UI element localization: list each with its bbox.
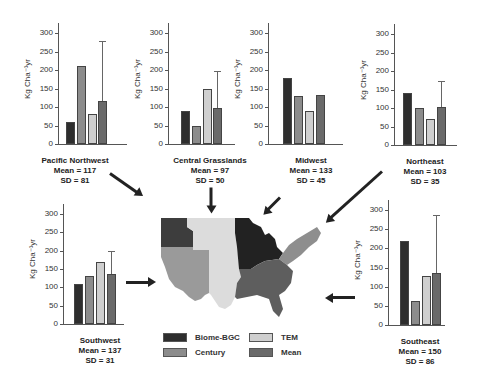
y-tick-mark xyxy=(385,248,388,249)
y-tick-mark xyxy=(60,251,63,252)
bar-biome-bgc xyxy=(403,93,412,145)
y-tick-mark xyxy=(60,287,63,288)
y-axis xyxy=(58,23,59,144)
y-tick-label: 250 xyxy=(371,49,389,57)
bar-tem xyxy=(96,262,105,324)
y-tick-mark xyxy=(385,210,388,211)
y-tick-mark xyxy=(165,52,168,53)
legend-item-century: Century xyxy=(163,348,225,357)
caption-name: Midwest xyxy=(256,156,366,166)
y-tick-label: 200 xyxy=(245,66,263,74)
y-tick-mark xyxy=(265,144,268,145)
caption-mean-label: Mean = 133 xyxy=(256,166,366,176)
legend-item-biome-bgc: Biome-BGC xyxy=(163,333,240,342)
y-tick-label: 50 xyxy=(40,302,58,310)
y-tick-label: 100 xyxy=(245,103,263,111)
x-axis xyxy=(165,144,235,145)
y-tick-mark xyxy=(265,70,268,71)
error-bar-cap xyxy=(438,81,445,82)
y-axis xyxy=(168,23,169,144)
caption-sd-label: SD = 45 xyxy=(256,176,366,186)
y-tick-mark xyxy=(165,126,168,127)
y-tick-mark xyxy=(265,33,268,34)
y-tick-mark xyxy=(165,33,168,34)
bar-mean xyxy=(98,101,107,144)
legend-label: Mean xyxy=(281,348,301,357)
y-tick-mark xyxy=(60,269,63,270)
error-bar xyxy=(441,81,442,107)
bar-century xyxy=(415,108,424,145)
y-tick-label: 100 xyxy=(365,283,383,291)
y-tick-mark xyxy=(385,306,388,307)
y-tick-mark xyxy=(265,52,268,53)
y-tick-mark xyxy=(60,214,63,215)
y-tick-label: 250 xyxy=(365,225,383,233)
y-tick-label: 300 xyxy=(245,29,263,37)
y-tick-label: 200 xyxy=(145,66,163,74)
y-tick-mark xyxy=(391,108,394,109)
error-bar-cap xyxy=(214,71,221,72)
legend-item-mean: Mean xyxy=(249,348,301,357)
legend: Biome-BGC Century TEM Mean xyxy=(163,333,333,363)
bar-century xyxy=(77,66,86,144)
x-axis xyxy=(265,144,343,145)
legend-item-tem: TEM xyxy=(249,333,298,342)
caption-mean-label: Mean = 103 xyxy=(370,167,480,177)
y-tick-label: 100 xyxy=(40,283,58,291)
bar-biome-bgc xyxy=(283,78,292,144)
y-tick-label: 300 xyxy=(365,206,383,214)
error-bar xyxy=(102,41,103,101)
y-tick-mark xyxy=(385,325,388,326)
y-axis xyxy=(394,24,395,145)
y-tick-label: 150 xyxy=(365,264,383,272)
y-tick-label: 250 xyxy=(35,48,53,56)
y-tick-label: 200 xyxy=(371,67,389,75)
y-tick-mark xyxy=(55,52,58,53)
y-tick-mark xyxy=(265,89,268,90)
y-tick-mark xyxy=(165,144,168,145)
bar-mean xyxy=(316,95,325,144)
y-tick-mark xyxy=(385,229,388,230)
error-bar-cap xyxy=(433,215,440,216)
error-bar-cap xyxy=(99,41,106,42)
legend-swatch-century xyxy=(163,348,187,357)
y-tick-label: 50 xyxy=(35,122,53,130)
caption-sd-label: SD = 86 xyxy=(365,357,475,367)
y-tick-label: 0 xyxy=(245,140,263,148)
caption-name: Southeast xyxy=(365,337,475,347)
y-tick-label: 150 xyxy=(35,85,53,93)
bar-mean xyxy=(213,108,222,144)
caption-sd-label: SD = 50 xyxy=(155,176,265,186)
y-tick-mark xyxy=(55,33,58,34)
caption-sd-label: SD = 31 xyxy=(45,356,155,366)
y-tick-label: 0 xyxy=(40,320,58,328)
bar-biome-bgc xyxy=(74,284,83,324)
arrow-southeast xyxy=(331,296,355,299)
caption-name: Central Grasslands xyxy=(155,156,265,166)
x-axis xyxy=(385,325,445,326)
y-tick-label: 0 xyxy=(365,321,383,329)
legend-label: TEM xyxy=(281,333,298,342)
caption-mean-label: Mean = 97 xyxy=(155,166,265,176)
y-tick-mark xyxy=(391,145,394,146)
y-tick-mark xyxy=(55,89,58,90)
caption-name: Southwest xyxy=(45,336,155,346)
x-axis xyxy=(391,145,457,146)
y-tick-label: 0 xyxy=(145,140,163,148)
y-tick-label: 50 xyxy=(371,123,389,131)
y-tick-label: 150 xyxy=(145,85,163,93)
bar-century xyxy=(294,96,303,144)
y-tick-label: 50 xyxy=(245,122,263,130)
y-tick-mark xyxy=(60,324,63,325)
y-tick-label: 200 xyxy=(35,66,53,74)
error-bar-cap xyxy=(108,251,115,252)
y-tick-label: 300 xyxy=(40,210,58,218)
y-tick-mark xyxy=(265,126,268,127)
error-bar xyxy=(436,215,437,273)
bar-tem xyxy=(422,276,431,325)
y-axis xyxy=(63,204,64,324)
y-tick-label: 0 xyxy=(371,141,389,149)
bar-mean xyxy=(432,273,441,325)
y-tick-mark xyxy=(165,89,168,90)
bar-mean xyxy=(437,107,446,145)
